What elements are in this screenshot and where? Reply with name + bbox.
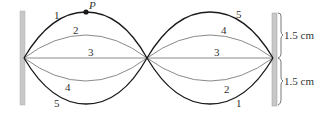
label-right-1: 1 bbox=[236, 97, 242, 109]
point-p-label: P bbox=[88, 0, 96, 11]
point-p-marker bbox=[83, 9, 88, 14]
curve-2-left bbox=[24, 35, 147, 58]
lower-brace bbox=[278, 58, 283, 105]
lower-dimension-label: 1.5 cm bbox=[284, 75, 314, 87]
label-right-5: 5 bbox=[236, 8, 242, 20]
label-left-2: 2 bbox=[73, 24, 79, 36]
label-right-4: 4 bbox=[221, 24, 227, 36]
label-right-2: 2 bbox=[224, 83, 230, 95]
label-left-4: 4 bbox=[65, 81, 71, 93]
label-left-1: 1 bbox=[54, 9, 60, 21]
curve-4-left bbox=[24, 58, 147, 81]
label-right-3: 3 bbox=[214, 46, 220, 58]
upper-brace bbox=[278, 13, 283, 58]
upper-dimension-label: 1.5 cm bbox=[284, 29, 314, 41]
standing-wave-diagram: P 1 2 3 4 5 5 4 3 2 1 1.5 cm 1.5 cm bbox=[0, 0, 330, 118]
curve-4-right bbox=[147, 35, 273, 58]
label-left-3: 3 bbox=[88, 46, 94, 58]
curve-2-right bbox=[147, 58, 273, 81]
label-left-5: 5 bbox=[54, 97, 60, 109]
